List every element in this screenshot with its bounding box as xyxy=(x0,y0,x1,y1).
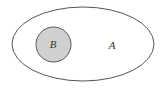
set-a-label: A xyxy=(108,39,116,51)
set-b-label: B xyxy=(50,38,57,50)
venn-diagram: B A xyxy=(0,0,167,88)
set-a-ellipse xyxy=(12,7,154,81)
